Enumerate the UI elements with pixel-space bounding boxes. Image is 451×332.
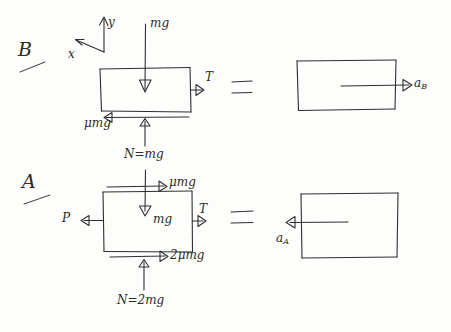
force-arrow-weight-a [140,170,152,216]
force-label-friction-b: μmg [84,117,111,129]
accel-subscript-b: B [421,82,427,91]
accel-label-b: aB [414,77,427,91]
axis-label-y: y [108,16,115,28]
case-b-underline [20,62,45,72]
figure-canvas: .s { fill:none; stroke:#2f2f2f; stroke-w… [0,0,451,332]
case-label-a: A [22,172,36,191]
equals-sign-a [231,211,253,223]
force-label-weight-b: mg [150,17,169,29]
force-label-tension-a: T [199,203,207,215]
case-a-underline [24,195,50,204]
force-arrow-friction-top-a [107,181,167,192]
force-label-normal-a: N=2mg [117,294,164,306]
force-arrow-friction-bottom-a [110,251,168,262]
force-label-normal-b: N=mg [124,148,164,160]
force-arrow-tension-b [191,85,205,96]
force-label-friction-top-a: μmg [169,176,196,188]
force-arrow-applied-a [81,216,104,226]
force-arrow-normal-b [140,119,150,147]
force-arrow-tension-a [193,216,207,227]
body-a-box [103,191,193,252]
case-label-b: B [18,40,32,59]
accel-arrow-b [341,80,412,92]
force-label-friction-bottom-a: 2μmg [170,249,205,261]
force-arrow-normal-a [139,260,149,291]
accel-arrow-a [286,217,348,229]
accel-subscript-a: A [283,237,289,246]
force-label-tension-b: T [205,71,213,83]
axes-b [76,17,109,52]
force-label-weight-a: mg [153,213,172,225]
axis-label-x: x [68,48,75,60]
force-arrow-weight-b [140,24,152,92]
force-label-applied-a: P [62,212,70,224]
accel-label-a: aA [276,232,289,246]
result-a-box [301,193,398,258]
equals-sign-b [232,81,252,93]
